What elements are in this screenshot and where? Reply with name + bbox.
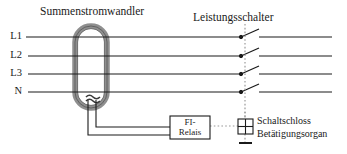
breaker-contacts — [239, 29, 259, 94]
breaker-contact-n — [239, 84, 259, 94]
breaker-contact-l3 — [239, 66, 259, 76]
title-circuit-breaker: Leistungsschalter — [193, 11, 273, 24]
title-summation-transformer: Summenstromwandler — [40, 5, 144, 18]
actuator-label-line2: Betätigungsorgan — [257, 128, 327, 139]
phase-conductors — [26, 37, 332, 92]
breaker-contact-l1 — [239, 29, 259, 39]
phase-label-n: N — [0, 85, 22, 97]
secondary-lead-b — [96, 100, 170, 127]
phase-label-l3: L3 — [0, 67, 22, 79]
phase-label-l1: L1 — [0, 30, 22, 42]
trip-linkage — [210, 24, 245, 143]
actuator-label-line1: Schaltschloss — [257, 115, 311, 126]
circuit-diagram: Summenstromwandler Leistungsschalter L1 … — [0, 0, 347, 154]
fi-relay-label-line1: FI- — [170, 118, 210, 127]
phase-label-l2: L2 — [0, 49, 22, 61]
breaker-contact-l2 — [239, 48, 259, 58]
fi-relay-label-line2: Relais — [170, 128, 210, 137]
